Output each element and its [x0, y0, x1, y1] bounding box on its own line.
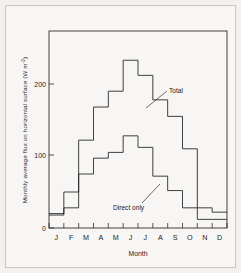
y-tick-label-0: 0	[42, 225, 46, 232]
y-tick-label-200: 200	[34, 81, 46, 88]
month-label-dec: D	[217, 233, 222, 242]
month-label-jan: J	[55, 233, 59, 242]
figure-canvas: 0 100 200 J F M A M J J A	[0, 0, 241, 273]
month-label-mar: M	[83, 233, 89, 242]
month-label-jul: J	[144, 233, 148, 242]
y-tick-label-100: 100	[34, 152, 46, 159]
x-axis-title: Month	[129, 250, 148, 257]
y-axis-ticks	[49, 84, 54, 228]
month-label-apr: A	[99, 233, 104, 242]
y-axis-title-close: )	[21, 57, 28, 59]
month-label-oct: O	[187, 233, 193, 242]
y-axis-title: Monthly average flux on horizontal surfa…	[21, 57, 28, 203]
month-label-nov: N	[202, 233, 207, 242]
x-axis-labels: J F M A M J J A S O N D	[55, 233, 223, 242]
month-label-feb: F	[69, 233, 74, 242]
chart-plot: 0 100 200 J F M A M J J A	[0, 0, 241, 273]
direct-only-annotation-label: Direct only	[113, 204, 145, 212]
svg-text:Monthly average flux on horizo: Monthly average flux on horizontal surfa…	[21, 57, 28, 203]
total-annotation-label: Total	[169, 87, 183, 94]
month-label-aug: A	[158, 233, 163, 242]
month-label-sep: S	[173, 233, 178, 242]
month-label-jun: J	[129, 233, 133, 242]
direct-only-leader-line	[142, 184, 160, 203]
y-axis-title-main: Monthly average flux on horizontal surfa…	[21, 63, 28, 203]
month-label-may: M	[113, 233, 119, 242]
x-axis-ticks	[49, 223, 227, 228]
